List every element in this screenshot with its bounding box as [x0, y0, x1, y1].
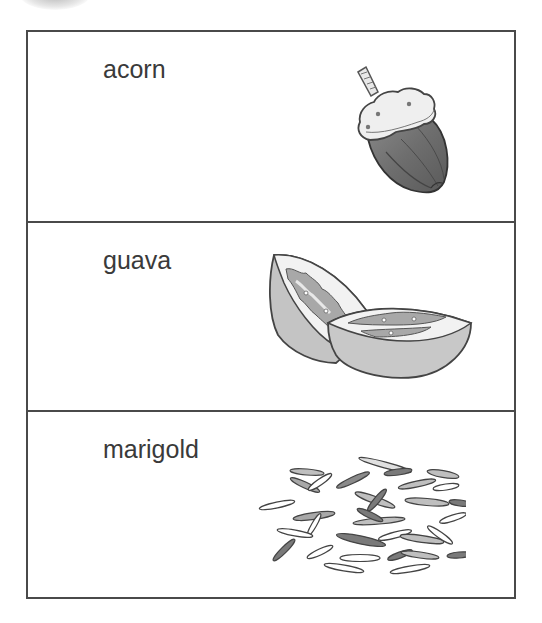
row-label: guava: [103, 246, 171, 275]
acorn-icon: [346, 64, 456, 199]
guava-icon: [266, 245, 478, 385]
marigold-seeds-icon: [250, 455, 466, 575]
row-label: marigold: [103, 435, 199, 464]
table-row-acorn: acorn: [28, 32, 514, 219]
table-row-guava: guava: [28, 221, 514, 410]
seed-table: acorn: [26, 30, 516, 599]
table-row-marigold: marigold: [28, 410, 514, 599]
row-label: acorn: [103, 55, 166, 84]
ink-smudge: [20, 0, 90, 10]
